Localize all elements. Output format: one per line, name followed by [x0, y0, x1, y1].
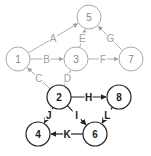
- node-label: 1: [15, 54, 21, 65]
- edge-label: A: [50, 33, 57, 44]
- edge-label: G: [106, 33, 114, 44]
- node-label: 7: [128, 54, 134, 65]
- edge-label: F: [100, 54, 106, 65]
- node-4: 4: [26, 122, 50, 146]
- node-1: 1: [6, 47, 30, 71]
- edge-label: C: [35, 73, 42, 84]
- graph-diagram: ABCDEFGHIJKL 13572846: [0, 0, 151, 156]
- node-label: 3: [73, 54, 79, 65]
- edge-label: J: [46, 110, 52, 121]
- edge-label: H: [85, 92, 92, 103]
- node-label: 5: [86, 12, 92, 23]
- node-7: 7: [119, 47, 143, 71]
- edge-label: E: [79, 33, 86, 44]
- node-5: 5: [77, 5, 101, 29]
- node-label: 4: [35, 129, 41, 140]
- node-label: 8: [116, 92, 122, 103]
- node-6: 6: [83, 122, 107, 146]
- node-8: 8: [107, 85, 131, 109]
- edge-label: B: [43, 54, 50, 65]
- node-label: 6: [92, 129, 98, 140]
- edge-label: D: [64, 73, 71, 84]
- node-3: 3: [64, 47, 88, 71]
- node-label: 2: [56, 92, 62, 103]
- edge-label: I: [75, 110, 78, 121]
- edge-label: L: [104, 110, 110, 121]
- node-2: 2: [47, 85, 71, 109]
- edge-label: K: [63, 129, 71, 140]
